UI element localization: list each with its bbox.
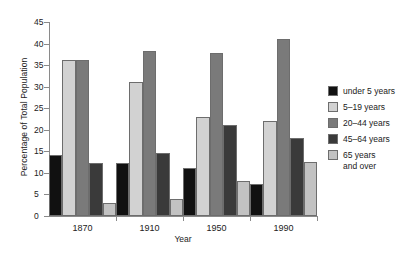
legend-item: under 5 years [328, 86, 395, 97]
bar [49, 155, 63, 216]
bar-group [250, 22, 318, 216]
legend-item: 45–64 years [328, 134, 395, 145]
x-axis-title: Year [49, 234, 317, 244]
legend-swatch-icon [328, 102, 338, 112]
legend-swatch-icon [328, 118, 338, 128]
x-tick [250, 216, 251, 221]
x-tick [183, 216, 184, 221]
bar-group [183, 22, 251, 216]
bar [196, 117, 210, 216]
legend-item: 65 years and over [328, 150, 395, 171]
bar [143, 51, 157, 216]
bar [89, 163, 103, 216]
y-axis-title: Percentage of Total Population [19, 32, 29, 202]
plot-area: 051015202530354045 1870191019501990 [49, 22, 317, 217]
legend-label: 20–44 years [343, 118, 390, 129]
bar-group [116, 22, 184, 216]
bar [277, 39, 291, 216]
bar [170, 199, 184, 216]
x-tick-label: 1990 [273, 223, 293, 233]
legend-swatch-icon [328, 134, 338, 144]
bar-group [49, 22, 117, 216]
y-tick-label: 45 [34, 17, 40, 27]
bar [263, 121, 277, 216]
chart-legend: under 5 years5–19 years20–44 years45–64 … [328, 86, 395, 177]
legend-label: 45–64 years [343, 134, 390, 145]
x-tick-label: 1950 [206, 223, 226, 233]
bar [156, 153, 170, 216]
bar [223, 125, 237, 216]
bar [250, 184, 264, 216]
y-tick-label: 20 [34, 125, 40, 135]
bar [129, 82, 143, 217]
y-tick-label: 40 [34, 39, 40, 49]
legend-label: 5–19 years [343, 102, 385, 113]
y-tick-label: 30 [34, 82, 40, 92]
bar [183, 168, 197, 216]
bar [76, 60, 90, 216]
x-tick [116, 216, 117, 221]
legend-item: 20–44 years [328, 118, 395, 129]
x-tick-label: 1870 [72, 223, 92, 233]
y-tick-label: 5 [34, 189, 40, 199]
x-tick-label: 1910 [139, 223, 159, 233]
legend-swatch-icon [328, 150, 338, 160]
x-tick [317, 216, 318, 221]
bar [290, 138, 304, 216]
y-tick-label: 10 [34, 168, 40, 178]
bar [210, 53, 224, 216]
legend-label: 65 years and over [343, 150, 376, 171]
bar [103, 203, 117, 216]
bar-chart: Percentage of Total Population 051015202… [0, 0, 420, 261]
y-tick [44, 216, 49, 217]
legend-item: 5–19 years [328, 102, 395, 113]
y-tick-label: 25 [34, 103, 40, 113]
bar [62, 60, 76, 216]
y-tick-label: 0 [34, 211, 40, 221]
legend-swatch-icon [328, 86, 338, 96]
y-tick-label: 35 [34, 60, 40, 70]
legend-label: under 5 years [343, 86, 395, 97]
y-tick-label: 15 [34, 146, 40, 156]
bar [237, 181, 251, 216]
bar [304, 162, 318, 216]
bar [116, 163, 130, 216]
